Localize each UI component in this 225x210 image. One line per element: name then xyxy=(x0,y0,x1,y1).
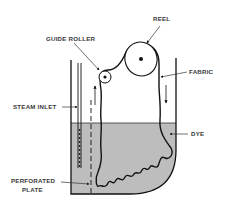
label-dye: DYE xyxy=(191,130,204,137)
fabric-leader xyxy=(161,72,187,77)
reel-leader xyxy=(147,26,160,43)
label-fabric: FABRIC xyxy=(189,68,214,75)
label-perforated: PERFORATED xyxy=(11,177,55,184)
label-reel: REEL xyxy=(153,15,170,22)
label-plate: PLATE xyxy=(22,186,43,193)
reel-axle xyxy=(139,57,143,61)
label-steam-inlet: STEAM INLET xyxy=(13,103,56,110)
guide-roller-axle xyxy=(103,75,106,78)
label-guide-roller: GUIDE ROLLER xyxy=(46,35,95,42)
dyeing-machine-diagram: REEL GUIDE ROLLER FABRIC STEAM INLET DYE… xyxy=(0,0,225,210)
